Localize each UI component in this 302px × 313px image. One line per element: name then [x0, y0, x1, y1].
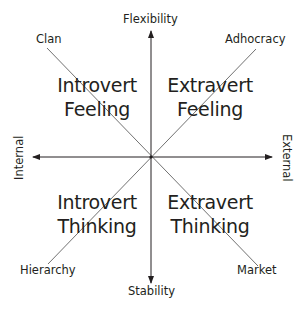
corner-label-hierarchy: Hierarchy	[20, 265, 76, 277]
quadrant-diagram: Flexibility Stability Internal External …	[0, 0, 302, 313]
quadrant-top-left-line2: Feeling	[52, 97, 142, 121]
axis-label-right: External	[280, 134, 292, 182]
corner-label-clan: Clan	[36, 34, 62, 46]
axis-label-bottom: Stability	[128, 286, 175, 298]
quadrant-bottom-right: Extravert Thinking	[160, 190, 260, 238]
quadrant-bottom-left-line2: Thinking	[52, 214, 142, 238]
corner-label-adhocracy: Adhocracy	[225, 34, 286, 46]
quadrant-top-right-line2: Feeling	[160, 97, 260, 121]
quadrant-top-left-line1: Introvert	[52, 73, 142, 97]
axis-label-top: Flexibility	[123, 14, 178, 26]
axis-label-left: Internal	[14, 134, 26, 182]
quadrant-bottom-right-line2: Thinking	[160, 214, 260, 238]
center-point	[149, 155, 152, 158]
corner-label-market: Market	[237, 265, 277, 277]
quadrant-top-right: Extravert Feeling	[160, 73, 260, 121]
quadrant-bottom-left-line1: Introvert	[52, 190, 142, 214]
quadrant-top-left: Introvert Feeling	[52, 73, 142, 121]
quadrant-bottom-right-line1: Extravert	[160, 190, 260, 214]
quadrant-bottom-left: Introvert Thinking	[52, 190, 142, 238]
quadrant-top-right-line1: Extravert	[160, 73, 260, 97]
